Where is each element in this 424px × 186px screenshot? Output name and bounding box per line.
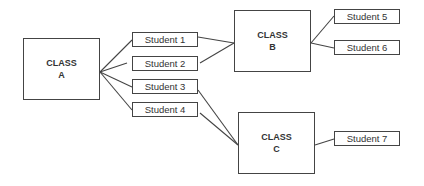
class-c-label-line2: C	[273, 143, 280, 155]
class-a-label-line2: A	[58, 69, 65, 81]
student-3-box: Student 3	[132, 79, 198, 94]
student-2-label: Student 2	[145, 58, 186, 69]
class-c-box: CLASS C	[238, 112, 315, 174]
student-5-label: Student 5	[347, 11, 388, 22]
student-4-label: Student 4	[145, 104, 186, 115]
student-6-box: Student 6	[334, 40, 400, 55]
student-3-label: Student 3	[145, 81, 186, 92]
class-b-label-line2: B	[269, 41, 276, 53]
student-4-box: Student 4	[132, 102, 198, 117]
class-c-label-line1: CLASS	[261, 131, 292, 143]
student-6-label: Student 6	[347, 42, 388, 53]
student-7-box: Student 7	[334, 131, 400, 146]
class-b-box: CLASS B	[234, 10, 311, 72]
class-a-label-line1: CLASS	[46, 57, 77, 69]
student-1-label: Student 1	[145, 34, 186, 45]
student-5-box: Student 5	[334, 9, 400, 24]
student-1-box: Student 1	[132, 32, 198, 47]
student-7-label: Student 7	[347, 133, 388, 144]
student-2-box: Student 2	[132, 56, 198, 71]
class-b-label-line1: CLASS	[257, 29, 288, 41]
class-a-box: CLASS A	[23, 38, 100, 100]
